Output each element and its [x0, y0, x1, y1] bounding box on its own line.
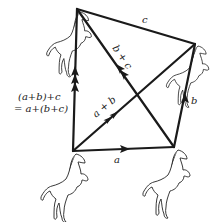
vector-b-plus-c [77, 9, 174, 147]
horse-after-a-icon [143, 150, 190, 218]
label-b: b [191, 95, 197, 106]
label-sum-line2: = a+(b+c) [14, 103, 68, 114]
vector-addition-diagram: a b c a + b b + c (a+b)+c = a+(b+c) [0, 0, 212, 222]
label-a: a [114, 154, 120, 165]
label-c: c [142, 14, 148, 25]
vector-c [77, 9, 195, 44]
horse-origin-icon [41, 154, 88, 222]
arrowhead-sum-icon [71, 66, 79, 92]
label-b-plus-c: b + c [110, 43, 135, 72]
label-sum-line1: (a+b)+c [18, 91, 61, 102]
